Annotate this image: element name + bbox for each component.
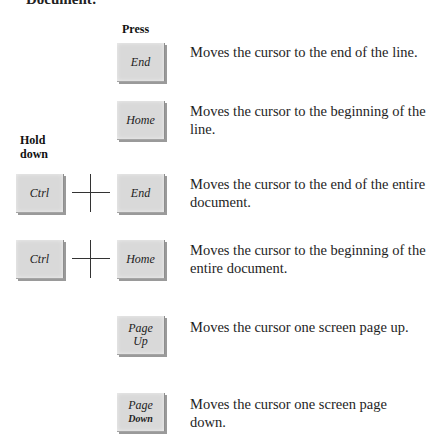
end-key: End — [117, 174, 165, 213]
description-ctrl-end: Moves the cursor to the end of the entir… — [190, 175, 435, 211]
key-label-line2: Up — [133, 335, 148, 348]
description-end: Moves the cursor to the end of the line. — [190, 43, 435, 61]
description-home: Moves the cursor to the beginning of the… — [190, 102, 435, 138]
key-label: End — [131, 56, 150, 69]
key-label-line1: Page — [128, 399, 153, 412]
cut-off-heading: Document: — [26, 0, 97, 8]
home-key: Home — [117, 101, 165, 140]
plus-icon — [72, 240, 110, 278]
hold-down-header: Hold down — [20, 133, 48, 161]
page-up-key: Page Up — [117, 316, 165, 355]
page-down-key: Page Down — [117, 393, 165, 432]
description-page-down: Moves the cursor one screen page down. — [190, 395, 410, 431]
end-key: End — [117, 43, 165, 82]
plus-icon — [72, 174, 110, 212]
key-label: Home — [126, 253, 155, 266]
hold-down-line1: Hold — [20, 133, 48, 147]
description-ctrl-home: Moves the cursor to the beginning of the… — [190, 241, 435, 277]
key-label: Ctrl — [30, 187, 49, 200]
home-key: Home — [117, 240, 165, 279]
key-label-line2: Down — [128, 412, 152, 425]
description-page-up: Moves the cursor one screen page up. — [190, 318, 440, 336]
hold-down-line2: down — [20, 147, 48, 161]
ctrl-key: Ctrl — [16, 174, 64, 213]
ctrl-key: Ctrl — [16, 240, 64, 279]
key-label: Ctrl — [30, 253, 49, 266]
key-label: Home — [126, 114, 155, 127]
press-header: Press — [122, 22, 149, 36]
key-label: End — [131, 187, 150, 200]
